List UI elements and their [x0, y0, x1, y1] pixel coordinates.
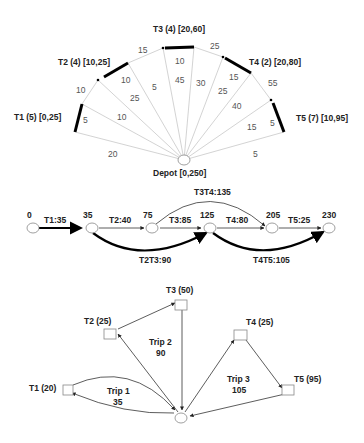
- service-t5: 5: [270, 118, 275, 128]
- trip3-return: [190, 394, 285, 416]
- trip3-name: Trip 3: [227, 374, 250, 384]
- trip1-out: [72, 393, 174, 413]
- t3-end-to-depot: 30: [196, 78, 206, 88]
- travel-t3-t4: 25: [210, 41, 220, 51]
- time-node-0: [27, 223, 39, 233]
- route-label-t4: T4 (25): [246, 317, 274, 327]
- route-diagram: T1 (20) T2 (25) T3 (50) T4 (25) T5 (95) …: [29, 285, 322, 423]
- trip1-cost: 35: [113, 397, 123, 407]
- t1-end-to-depot: 10: [117, 112, 127, 122]
- arc-label-t3t4: T3T4:135: [194, 187, 231, 197]
- route-depot-node: [175, 413, 187, 423]
- depot-to-t5: 15: [247, 122, 257, 132]
- depot-to-t3: 45: [175, 75, 185, 85]
- arc-label-t2t3: T2T3:90: [139, 255, 171, 265]
- route-node-t3: [175, 300, 187, 310]
- task-segment-t1: [75, 104, 82, 132]
- task-segment-t4: [225, 58, 251, 73]
- service-t4: 15: [229, 72, 239, 82]
- arc-label-t1: T1:35: [44, 215, 66, 225]
- route-label-t5: T5 (95): [294, 374, 322, 384]
- diagram-canvas: T1 (5) [0,25] T2 (4) [10,25] T3 (4) [20,…: [0, 0, 364, 443]
- task-label-t3: T3 (4) [20,60]: [153, 24, 205, 34]
- trip1-name: Trip 1: [107, 386, 130, 396]
- route-node-t2: [104, 329, 116, 339]
- trip2-name: Trip 2: [149, 337, 172, 347]
- route-label-t1: T1 (20): [29, 383, 57, 393]
- task-label-t1: T1 (5) [0,25]: [14, 112, 61, 122]
- time-node-35: [86, 223, 98, 233]
- service-t2: 10: [121, 75, 131, 85]
- depot-to-t1: 20: [108, 149, 118, 159]
- arc-label-t4: T4:80: [226, 215, 248, 225]
- arc-t2t3: [93, 233, 206, 251]
- trip2-t2-t3: [118, 303, 175, 329]
- travel-t4-t5: 55: [268, 78, 278, 88]
- travel-t1-t2: 10: [76, 85, 86, 95]
- route-node-t4: [234, 330, 247, 340]
- depot-label: Depot [0,250]: [153, 168, 207, 178]
- time-node-205: [266, 223, 278, 233]
- depot-to-t2: 25: [130, 93, 140, 103]
- route-node-t5: [282, 385, 294, 395]
- time-node-230: [323, 223, 335, 233]
- travel-t2-t3: 15: [138, 45, 148, 55]
- time-node-75: [146, 223, 158, 233]
- time-label-230: 230: [322, 210, 336, 220]
- task-label-t5: T5 (7) [10,95]: [296, 113, 348, 123]
- depot-to-t4: 25: [218, 86, 228, 96]
- arc-label-t4t5: T4T5:105: [253, 255, 290, 265]
- route-label-t3: T3 (50): [166, 285, 194, 295]
- t2-end-to-depot: 5: [152, 82, 157, 92]
- service-t1: 5: [83, 115, 88, 125]
- time-label-35: 35: [83, 210, 93, 220]
- task-label-t2: T2 (4) [10,25]: [58, 57, 110, 67]
- task-label-t4: T4 (2) [20,80]: [249, 57, 301, 67]
- route-label-t2: T2 (25): [84, 316, 112, 326]
- task-segment-t3: [165, 47, 194, 48]
- trip2-cost: 90: [156, 348, 166, 358]
- time-label-205: 205: [266, 210, 280, 220]
- trip3-t4-t5: [246, 340, 282, 388]
- time-node-125: [204, 223, 216, 233]
- t4-end-to-depot: 40: [232, 101, 242, 111]
- arc-label-t2: T2:40: [109, 215, 131, 225]
- time-label-125: 125: [200, 210, 214, 220]
- service-t3: 10: [175, 56, 185, 66]
- arc-label-t3: T3:85: [169, 215, 191, 225]
- trip3-cost: 105: [232, 385, 246, 395]
- depot-node: [178, 155, 190, 165]
- arc-label-t5: T5:25: [288, 215, 310, 225]
- fan-diagram: T1 (5) [0,25] T2 (4) [10,25] T3 (4) [20,…: [14, 24, 348, 178]
- timeline-graph: 0 35 75 125 205 230 T1:35 T2:40 T3:85 T4…: [27, 187, 336, 265]
- time-label-75: 75: [143, 210, 153, 220]
- time-label-0: 0: [27, 210, 32, 220]
- arc-t4t5: [213, 232, 323, 250]
- t5-end-to-depot: 5: [253, 149, 258, 159]
- route-node-t1: [63, 385, 73, 395]
